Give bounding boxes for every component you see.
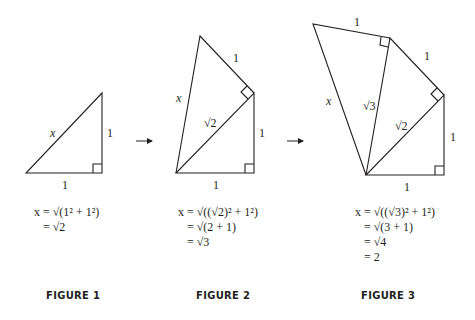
figure-2-hyp-label: x bbox=[175, 91, 182, 105]
figure-3-caption: FIGURE 3 bbox=[361, 290, 415, 301]
equation-line: x = √((√3)² + 1²) bbox=[355, 205, 435, 220]
figure-2-equation: x = √((√2)² + 1²) = √(2 + 1) = √3 bbox=[178, 205, 258, 250]
figure-2-top-label: 1 bbox=[233, 51, 239, 65]
equation-line: = √(3 + 1) bbox=[355, 220, 435, 235]
figure-3-diag2-label: √2 bbox=[395, 119, 408, 133]
figure-1-equation: x = √(1² + 1²) = √2 bbox=[34, 205, 99, 235]
equation-line: = √2 bbox=[34, 220, 99, 235]
figure-3-base-label: 1 bbox=[404, 180, 410, 194]
equation-line: = 2 bbox=[355, 250, 435, 265]
figure-2-diag-label: √2 bbox=[204, 116, 217, 130]
figure-2-base-label: 1 bbox=[213, 178, 219, 192]
figure-3-equation: x = √((√3)² + 1²) = √(3 + 1) = √4 = 2 bbox=[355, 205, 435, 265]
figure-3-top-label: 1 bbox=[354, 15, 360, 29]
figure-1-triangle bbox=[26, 93, 102, 173]
figure-3-hyp-label: x bbox=[325, 94, 332, 108]
figure-1-vert-label: 1 bbox=[107, 126, 113, 140]
equation-line: = √4 bbox=[355, 235, 435, 250]
figure-3-diag3-label: √3 bbox=[363, 99, 376, 113]
figure-1-caption: FIGURE 1 bbox=[46, 290, 100, 301]
spiral-of-theodorus-diagram: x 1 1 x 1 √2 1 1 1 1 x √3 √2 1 1 bbox=[0, 0, 475, 320]
figure-1-base-label: 1 bbox=[62, 178, 68, 192]
figure-2-vert-label: 1 bbox=[259, 126, 265, 140]
figure-2-triangles bbox=[176, 36, 254, 173]
equation-line: = √(2 + 1) bbox=[178, 220, 258, 235]
figure-2-caption: FIGURE 2 bbox=[196, 290, 250, 301]
figure-3-vert-label: 1 bbox=[450, 130, 456, 144]
figure-3-triangles bbox=[313, 24, 444, 175]
figure-1-hyp-label: x bbox=[49, 126, 56, 140]
equation-line: x = √((√2)² + 1²) bbox=[178, 205, 258, 220]
equation-line: = √3 bbox=[178, 235, 258, 250]
figure-3-upper-label: 1 bbox=[424, 49, 430, 63]
equation-line: x = √(1² + 1²) bbox=[34, 205, 99, 220]
